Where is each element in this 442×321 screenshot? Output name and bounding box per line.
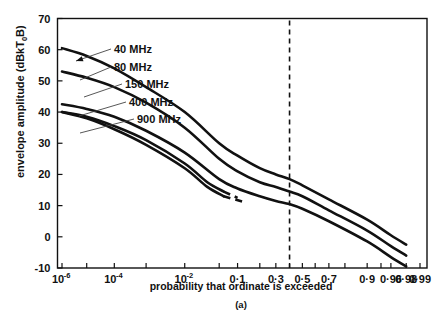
y-tick-label: 50 — [38, 75, 50, 87]
x-tick-label-exponent: -2 — [186, 271, 193, 280]
x-tick-label: 0·9 — [359, 273, 375, 285]
envelope-amplitude-probability-chart: 10-610-410-20·10·30·50·70·90·960·980·99 … — [0, 0, 442, 321]
series-label: 900 MHz — [137, 113, 182, 125]
y-tick-label: 70 — [38, 13, 50, 25]
x-tick-label: 10 — [104, 273, 116, 285]
y-tick-label: 0 — [44, 231, 50, 243]
x-tick-label-exponent: -4 — [116, 271, 123, 280]
chart-figure: 10-610-410-20·10·30·50·70·90·960·980·99 … — [0, 0, 442, 321]
series-label: 40 MHz — [114, 43, 152, 55]
y-tick-label: 20 — [38, 168, 50, 180]
x-tick-label-group: 0·99 — [409, 273, 431, 285]
y-tick-label: 10 — [38, 200, 50, 212]
y-tick-label: 60 — [38, 44, 50, 56]
x-axis-title: probability that ordinate is exceeded — [150, 280, 333, 292]
series-label: 80 MHz — [114, 61, 152, 73]
y-axis-title-tail: B) — [14, 25, 26, 37]
x-tick-label-group: 0·9 — [359, 273, 375, 285]
series-label: 150 MHz — [125, 78, 170, 90]
y-tick-label: 30 — [38, 137, 50, 149]
series-label: 400 MHz — [129, 96, 174, 108]
figure-caption: (a) — [235, 299, 247, 310]
y-tick-label: 40 — [38, 106, 50, 118]
x-tick-label-exponent: -6 — [64, 271, 71, 280]
x-tick-label: 10 — [52, 273, 64, 285]
y-tick-label: -10 — [35, 262, 51, 274]
y-axis-title-main: envelope amplitude (dBkT — [14, 41, 26, 178]
x-tick-label: 0·99 — [409, 273, 431, 285]
